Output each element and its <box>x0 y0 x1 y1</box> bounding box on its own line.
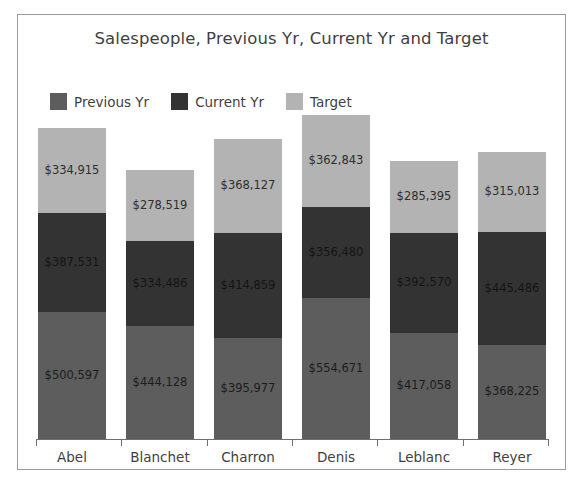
bar-stack: $285,395$392,570$417,058 <box>390 161 458 439</box>
category-label-denis: Denis <box>302 449 370 465</box>
bar-value-label: $554,671 <box>309 363 364 375</box>
legend-label-target: Target <box>310 94 352 110</box>
legend-swatch-target <box>286 93 303 110</box>
bar-stack: $362,843$356,480$554,671 <box>302 115 370 439</box>
bar-value-label: $392,570 <box>397 277 452 289</box>
bar-stack: $368,127$414,859$395,977 <box>214 139 282 439</box>
bar-segment-previous-yr[interactable]: $395,977 <box>214 338 282 439</box>
legend-label-current-yr: Current Yr <box>195 94 264 110</box>
legend-item-current-yr[interactable]: Current Yr <box>171 93 264 110</box>
axis-tick <box>207 439 208 446</box>
category-label-abel: Abel <box>38 449 106 465</box>
bar-column-leblanc[interactable]: $285,395$392,570$417,058 <box>390 115 458 439</box>
bar-value-label: $334,915 <box>45 165 100 177</box>
bar-column-denis[interactable]: $362,843$356,480$554,671 <box>302 115 370 439</box>
legend-swatch-previous-yr <box>50 93 67 110</box>
bar-value-label: $500,597 <box>45 370 100 382</box>
chart-frame: Salespeople, Previous Yr, Current Yr and… <box>17 14 566 470</box>
legend-label-previous-yr: Previous Yr <box>74 94 149 110</box>
bar-segment-current-yr[interactable]: $414,859 <box>214 233 282 339</box>
bar-segment-current-yr[interactable]: $334,486 <box>126 241 194 326</box>
bar-column-reyer[interactable]: $315,013$445,486$368,225 <box>478 115 546 439</box>
bar-segment-target[interactable]: $362,843 <box>302 115 370 207</box>
category-label-leblanc: Leblanc <box>390 449 458 465</box>
bar-value-label: $417,058 <box>397 380 452 392</box>
legend-item-target[interactable]: Target <box>286 93 352 110</box>
axis-tick <box>292 439 293 446</box>
bar-stack: $278,519$334,486$444,128 <box>126 170 194 439</box>
bar-segment-current-yr[interactable]: $356,480 <box>302 207 370 298</box>
bar-segment-target[interactable]: $315,013 <box>478 152 546 232</box>
bar-value-label: $356,480 <box>309 247 364 259</box>
axis-tick <box>463 439 464 446</box>
bar-segment-previous-yr[interactable]: $554,671 <box>302 298 370 439</box>
bar-segment-target[interactable]: $368,127 <box>214 139 282 233</box>
bar-value-label: $368,127 <box>221 180 276 192</box>
bar-value-label: $444,128 <box>133 377 188 389</box>
bar-segment-current-yr[interactable]: $387,531 <box>38 213 106 312</box>
bar-value-label: $445,486 <box>485 283 540 295</box>
category-label-reyer: Reyer <box>478 449 546 465</box>
axis-tick <box>548 439 549 446</box>
axis-tick <box>377 439 378 446</box>
category-label-charron: Charron <box>214 449 282 465</box>
bar-value-label: $334,486 <box>133 278 188 290</box>
bar-column-abel[interactable]: $334,915$387,531$500,597 <box>38 115 106 439</box>
bar-value-label: $285,395 <box>397 191 452 203</box>
bar-segment-previous-yr[interactable]: $444,128 <box>126 326 194 439</box>
chart-title: Salespeople, Previous Yr, Current Yr and… <box>18 29 565 48</box>
category-label-blanchet: Blanchet <box>126 449 194 465</box>
bar-column-blanchet[interactable]: $278,519$334,486$444,128 <box>126 115 194 439</box>
bar-value-label: $414,859 <box>221 280 276 292</box>
bar-column-charron[interactable]: $368,127$414,859$395,977 <box>214 115 282 439</box>
bar-segment-target[interactable]: $334,915 <box>38 128 106 213</box>
bar-segment-current-yr[interactable]: $392,570 <box>390 233 458 333</box>
bar-value-label: $387,531 <box>45 257 100 269</box>
bar-segment-target[interactable]: $285,395 <box>390 161 458 234</box>
x-axis-category-labels: AbelBlanchetCharronDenisLeblancReyer <box>38 449 546 465</box>
bar-segment-current-yr[interactable]: $445,486 <box>478 232 546 345</box>
bar-segment-previous-yr[interactable]: $417,058 <box>390 333 458 439</box>
bar-value-label: $395,977 <box>221 383 276 395</box>
bar-segment-target[interactable]: $278,519 <box>126 170 194 241</box>
bar-value-label: $278,519 <box>133 200 188 212</box>
legend-item-previous-yr[interactable]: Previous Yr <box>50 93 149 110</box>
bar-stack: $334,915$387,531$500,597 <box>38 128 106 439</box>
bar-stack: $315,013$445,486$368,225 <box>478 152 546 439</box>
plot-area: $334,915$387,531$500,597$278,519$334,486… <box>38 115 546 439</box>
bar-segment-previous-yr[interactable]: $368,225 <box>478 345 546 439</box>
chart-legend: Previous Yr Current Yr Target <box>50 93 374 110</box>
axis-tick <box>121 439 122 446</box>
legend-swatch-current-yr <box>171 93 188 110</box>
bar-value-label: $315,013 <box>485 186 540 198</box>
bar-value-label: $362,843 <box>309 155 364 167</box>
bar-value-label: $368,225 <box>485 386 540 398</box>
axis-tick <box>36 439 37 446</box>
stacked-bars: $334,915$387,531$500,597$278,519$334,486… <box>38 115 546 439</box>
bar-segment-previous-yr[interactable]: $500,597 <box>38 312 106 439</box>
